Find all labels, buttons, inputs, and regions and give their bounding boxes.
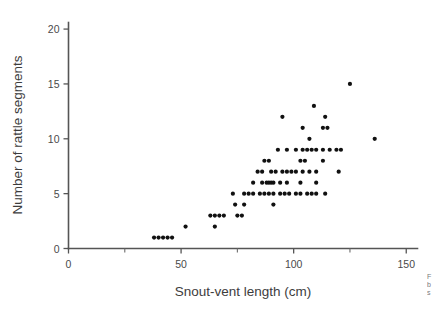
data-point bbox=[262, 192, 266, 196]
data-point bbox=[152, 235, 156, 239]
data-points-group bbox=[152, 82, 377, 240]
data-point bbox=[260, 170, 264, 174]
data-point bbox=[321, 159, 325, 163]
data-point bbox=[301, 148, 305, 152]
data-point bbox=[298, 181, 302, 185]
data-point bbox=[334, 148, 338, 152]
data-point bbox=[294, 192, 298, 196]
data-point bbox=[183, 224, 187, 228]
data-point bbox=[242, 192, 246, 196]
data-point bbox=[242, 203, 246, 207]
data-point bbox=[240, 213, 244, 217]
data-point bbox=[260, 181, 264, 185]
data-point bbox=[289, 170, 293, 174]
data-point bbox=[267, 192, 271, 196]
y-tick-label: 0 bbox=[54, 243, 60, 255]
side-caption-line-2: b bbox=[427, 281, 431, 288]
data-point bbox=[280, 170, 284, 174]
side-caption-line-1: F bbox=[427, 273, 431, 280]
data-point bbox=[251, 181, 255, 185]
data-point bbox=[271, 203, 275, 207]
x-axis-tick-labels: 050100150 bbox=[66, 258, 416, 270]
data-point bbox=[271, 181, 275, 185]
x-tick-label: 150 bbox=[397, 258, 415, 270]
data-point bbox=[314, 192, 318, 196]
data-point bbox=[165, 235, 169, 239]
data-point bbox=[156, 235, 160, 239]
data-point bbox=[298, 192, 302, 196]
data-point bbox=[269, 170, 273, 174]
data-point bbox=[294, 148, 298, 152]
data-point bbox=[285, 170, 289, 174]
data-point bbox=[278, 181, 282, 185]
data-point bbox=[294, 170, 298, 174]
data-point bbox=[285, 148, 289, 152]
x-tick-label: 50 bbox=[175, 258, 187, 270]
data-point bbox=[213, 224, 217, 228]
data-point bbox=[213, 213, 217, 217]
data-point bbox=[323, 192, 327, 196]
data-point bbox=[278, 192, 282, 196]
data-point bbox=[312, 104, 316, 108]
figure-container: 05101520 050100150 Snout-vent length (cm… bbox=[0, 0, 447, 315]
y-axis-tick-labels: 05101520 bbox=[48, 23, 60, 254]
data-point bbox=[271, 192, 275, 196]
data-point bbox=[161, 235, 165, 239]
figure-side-caption: Fbs bbox=[427, 273, 445, 297]
y-tick-label: 20 bbox=[48, 23, 60, 35]
data-point bbox=[287, 192, 291, 196]
data-point bbox=[328, 148, 332, 152]
data-point bbox=[217, 213, 221, 217]
data-point bbox=[314, 170, 318, 174]
data-point bbox=[274, 170, 278, 174]
scatter-plot: 05101520 050100150 Snout-vent length (cm… bbox=[0, 0, 447, 315]
data-point bbox=[298, 159, 302, 163]
data-point bbox=[325, 126, 329, 130]
x-tick-label: 100 bbox=[285, 258, 303, 270]
data-point bbox=[222, 213, 226, 217]
data-point bbox=[285, 181, 289, 185]
data-point bbox=[251, 192, 255, 196]
data-point bbox=[170, 235, 174, 239]
y-tick-label: 10 bbox=[48, 133, 60, 145]
data-point bbox=[305, 148, 309, 152]
x-tick-label: 0 bbox=[66, 258, 72, 270]
data-point bbox=[276, 148, 280, 152]
data-point bbox=[314, 148, 318, 152]
data-point bbox=[321, 148, 325, 152]
data-point bbox=[337, 170, 341, 174]
data-point bbox=[321, 126, 325, 130]
data-point bbox=[348, 82, 352, 86]
y-axis-title: Number of rattle segments bbox=[10, 55, 25, 214]
data-point bbox=[231, 192, 235, 196]
data-point bbox=[233, 203, 237, 207]
x-axis-title: Snout-vent length (cm) bbox=[175, 284, 312, 299]
data-point bbox=[323, 115, 327, 119]
data-point bbox=[262, 159, 266, 163]
data-point bbox=[258, 192, 262, 196]
data-point bbox=[267, 159, 271, 163]
data-point bbox=[339, 148, 343, 152]
data-point bbox=[305, 192, 309, 196]
side-caption-line-3: s bbox=[427, 289, 431, 296]
data-point bbox=[373, 137, 377, 141]
data-point bbox=[310, 148, 314, 152]
y-tick-label: 15 bbox=[48, 78, 60, 90]
data-point bbox=[301, 170, 305, 174]
data-point bbox=[280, 115, 284, 119]
data-point bbox=[314, 181, 318, 185]
data-point bbox=[307, 170, 311, 174]
y-tick-label: 5 bbox=[54, 188, 60, 200]
data-point bbox=[247, 192, 251, 196]
data-point bbox=[283, 192, 287, 196]
data-point bbox=[307, 137, 311, 141]
data-point bbox=[256, 170, 260, 174]
data-point bbox=[301, 126, 305, 130]
data-point bbox=[310, 192, 314, 196]
data-point bbox=[303, 159, 307, 163]
data-point bbox=[235, 213, 239, 217]
data-point bbox=[208, 213, 212, 217]
